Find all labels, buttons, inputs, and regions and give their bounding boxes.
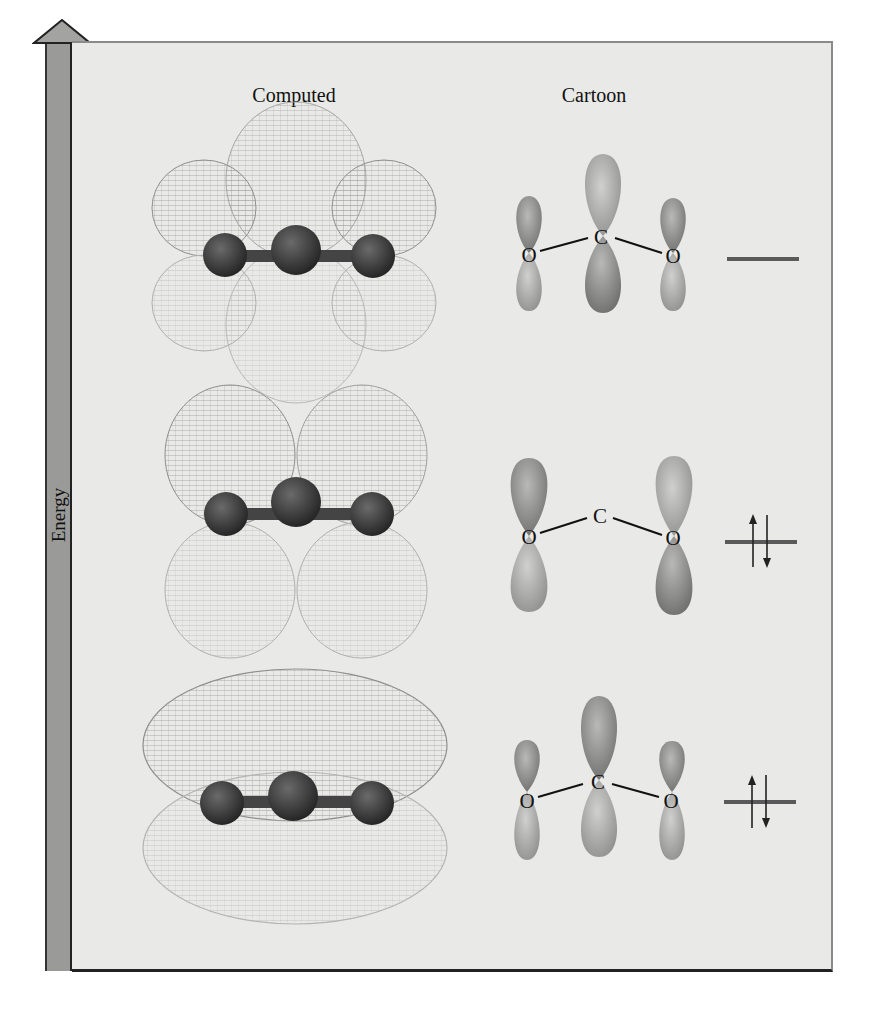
oxygen-label: O bbox=[663, 789, 678, 813]
oxygen-label: O bbox=[519, 789, 534, 813]
energy-level-paired-middle bbox=[725, 514, 797, 568]
computed-orbital-middle bbox=[165, 385, 427, 658]
cartoon-orbital-top: O C O bbox=[516, 154, 686, 313]
computed-orbital-top bbox=[152, 102, 436, 403]
carbon-atom-sphere bbox=[271, 477, 321, 527]
oxygen-label: O bbox=[665, 526, 680, 550]
carbon-label: C bbox=[593, 504, 607, 528]
oxygen-atom-sphere bbox=[351, 234, 395, 278]
computed-orbital-bottom bbox=[143, 669, 447, 924]
oxygen-atom-sphere bbox=[204, 492, 248, 536]
energy-level-paired-bottom bbox=[724, 775, 796, 828]
oxygen-label: O bbox=[521, 243, 536, 267]
oxygen-atom-sphere bbox=[350, 492, 394, 536]
cartoon-orbital-bottom: O C O bbox=[514, 696, 685, 860]
oxygen-atom-sphere bbox=[203, 233, 247, 277]
oxygen-label: O bbox=[665, 244, 680, 268]
cartoon-orbital-middle: O C O bbox=[511, 456, 693, 615]
oxygen-label: O bbox=[521, 525, 536, 549]
carbon-label: C bbox=[591, 770, 605, 794]
carbon-label: C bbox=[594, 225, 608, 249]
carbon-atom-sphere bbox=[268, 771, 318, 821]
carbon-atom-sphere bbox=[271, 225, 321, 275]
oxygen-atom-sphere bbox=[350, 781, 394, 825]
oxygen-atom-sphere bbox=[200, 781, 244, 825]
orbital-diagram-canvas: O C O O C O bbox=[0, 0, 871, 1010]
